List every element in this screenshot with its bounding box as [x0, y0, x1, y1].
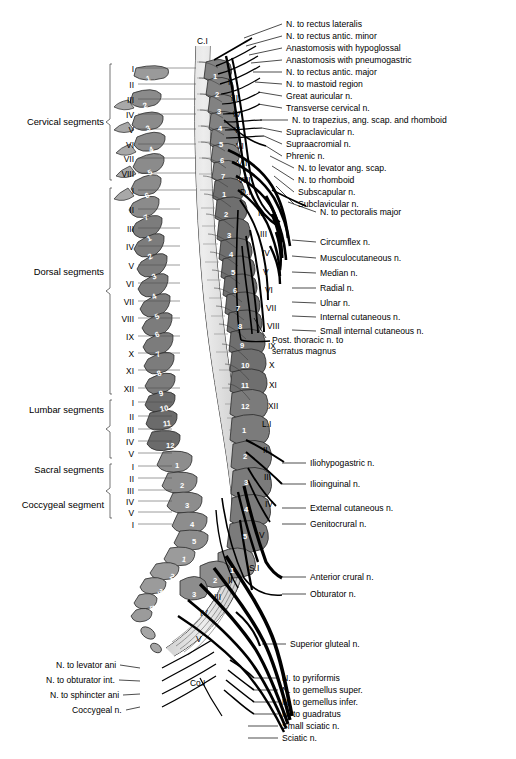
nerve-label-right-1: N. to rectus antic. minor	[286, 31, 377, 41]
vertebra-level-11: IV	[262, 248, 270, 258]
nerve-label-right-8: N. to trapezius, ang. scap. and rhomboid	[292, 115, 447, 125]
nerve-label-right-34: N. to guadratus	[282, 709, 341, 719]
vertebra-level-28: IV	[200, 608, 208, 618]
posterior-vertebra-number-18: 12	[166, 441, 174, 450]
posterior-vertebra-number-20: 2	[180, 481, 184, 490]
segment-level-10: III	[108, 224, 134, 234]
segment-group-3: Sacral segments	[0, 464, 104, 475]
figure-canvas: IIIIIIIVVVIVIIVIIIIIIIIIIVVVIVIIVIIIIXXX…	[0, 0, 516, 759]
segment-level-20: I	[108, 398, 134, 408]
vertebra-level-12: V	[263, 267, 269, 277]
segment-level-6: VII	[108, 154, 134, 164]
vertebra-level-22: III	[264, 472, 271, 482]
segment-level-24: V	[108, 449, 134, 459]
nerve-label-right-0: N. to rectus lateralis	[286, 19, 362, 29]
segment-level-2: III	[108, 95, 134, 105]
nerve-label-right-12: N. to levator ang. scap.	[298, 163, 386, 173]
vertebra-level-17: X	[269, 360, 275, 370]
nerve-label-right-17: Circumflex n.	[320, 237, 370, 247]
anterior-vertebra-number-9: 3	[227, 231, 231, 240]
segment-level-26: II	[108, 474, 134, 484]
nerve-label-right-25: Ilioinguinal n.	[310, 479, 360, 489]
posterior-vertebra-number-23: 5	[192, 537, 196, 546]
segment-level-0: I	[108, 64, 134, 74]
vertebra-level-18: XI	[269, 380, 277, 390]
posterior-vertebra-number-19: 1	[175, 461, 179, 470]
nerve-label-right-29: Obturator n.	[310, 589, 356, 599]
nerve-label-right-10: Supraacromial n.	[286, 139, 351, 149]
anterior-vertebra-number-4: 5	[219, 140, 223, 149]
anterior-vertebra-number-7: 1	[222, 190, 226, 199]
anterior-vertebra-number-6: 7	[221, 172, 225, 181]
segment-level-5: VI	[108, 140, 134, 150]
posterior-vertebra-number-22: 4	[190, 520, 194, 529]
nerve-label-right-9: Supraclavicular n.	[286, 127, 354, 137]
vertebra-level-9: II	[258, 208, 263, 218]
segment-level-19: XII	[108, 384, 134, 394]
nerve-label-right-21: Ulnar n.	[320, 298, 350, 308]
segment-level-18: XI	[108, 366, 134, 376]
nerve-label-right-multiline-0: Post. thoracic n. toserratus magnus	[272, 335, 368, 356]
nerve-label-right-5: N. to mastoid region	[286, 79, 363, 89]
nerve-label-right-33: N. to gemellus infer.	[282, 697, 358, 707]
nerve-label-right-32: N. to gemellus super.	[282, 685, 363, 695]
segment-level-22: III	[108, 425, 134, 435]
vertebra-level-8: D.I	[240, 187, 251, 197]
segment-group-1: Dorsal segments	[0, 266, 104, 277]
vertebra-level-23: IV	[265, 499, 273, 509]
segment-level-15: VIII	[108, 314, 134, 324]
segment-level-9: II	[108, 205, 134, 215]
vertebra-level-0: C.I	[197, 36, 208, 46]
segment-level-1: II	[108, 80, 134, 90]
vertebra-level-27: III	[214, 592, 221, 602]
segment-level-30: I	[108, 520, 134, 530]
vertebra-level-1: II	[228, 77, 233, 87]
vertebra-level-15: VIII	[267, 321, 280, 331]
anterior-vertebra-number-8: 2	[224, 210, 228, 219]
nerve-label-right-27: Genitocrural n.	[310, 519, 366, 529]
anterior-vertebra-number-0: 1	[213, 72, 217, 81]
vertebra-level-13: VI	[265, 285, 273, 295]
segment-level-27: III	[108, 486, 134, 496]
segment-level-14: VII	[108, 297, 134, 307]
vertebra-level-24: V	[259, 530, 265, 540]
segment-level-17: X	[108, 349, 134, 359]
nerve-label-right-20: Radial n.	[320, 283, 354, 293]
nerve-label-right-22: Internal cutaneous n.	[320, 312, 400, 322]
anterior-vertebra-number-13: 7	[236, 304, 240, 313]
nerve-label-right-19: Median n.	[320, 268, 358, 278]
vertebra-level-3: IV	[233, 109, 241, 119]
segment-level-28: IV	[108, 497, 134, 507]
nerve-label-right-6: Great auricular n.	[286, 91, 352, 101]
nerve-label-right-18: Musculocutaneous n.	[320, 253, 401, 263]
anterior-vertebra-number-15: 9	[240, 341, 244, 350]
posterior-vertebra-number-17: 11	[163, 419, 172, 429]
anterior-vertebra-number-11: 5	[231, 268, 235, 277]
anterior-vertebra-number-19: 1	[242, 426, 246, 435]
segment-level-12: V	[108, 261, 134, 271]
nerve-label-left-3: Coccygeal n.	[72, 705, 122, 715]
vertebra-level-5: VI	[236, 141, 244, 151]
anterior-vertebra-number-12: 6	[233, 286, 237, 295]
segment-group-2: Lumbar segments	[0, 404, 104, 415]
anterior-vertebra-number-18: 12	[241, 402, 249, 411]
segment-level-3: IV	[108, 110, 134, 120]
segment-level-4: V	[108, 125, 134, 135]
vertebra-level-10: III	[260, 229, 267, 239]
posterior-vertebra-number-21: 3	[185, 501, 189, 510]
vertebra-level-26: II	[228, 575, 233, 585]
nerve-label-right-4: N. to rectus antic. major	[286, 67, 377, 77]
segment-group-4: Coccygeal segment	[0, 499, 104, 510]
anterior-vertebra-number-5: 6	[220, 156, 224, 165]
anterior-vertebra-number-1: 2	[215, 90, 219, 99]
nerve-label-right-36: Sciatic n.	[282, 733, 317, 743]
nerve-label-right-24: Iliohypogastric n.	[310, 458, 375, 468]
anterior-vertebra-number-24: 1	[230, 566, 234, 575]
nerve-label-right-31: N. to pyriformis	[282, 673, 340, 683]
segment-level-7: VIII	[108, 169, 134, 179]
anterior-vertebra-number-2: 3	[217, 107, 221, 116]
anterior-vertebra-number-26: 3	[192, 590, 196, 599]
anterior-vertebra-number-20: 2	[243, 452, 247, 461]
nerve-label-right-35: Small sciatic n.	[282, 721, 339, 731]
vertebra-level-29: V	[196, 634, 202, 644]
